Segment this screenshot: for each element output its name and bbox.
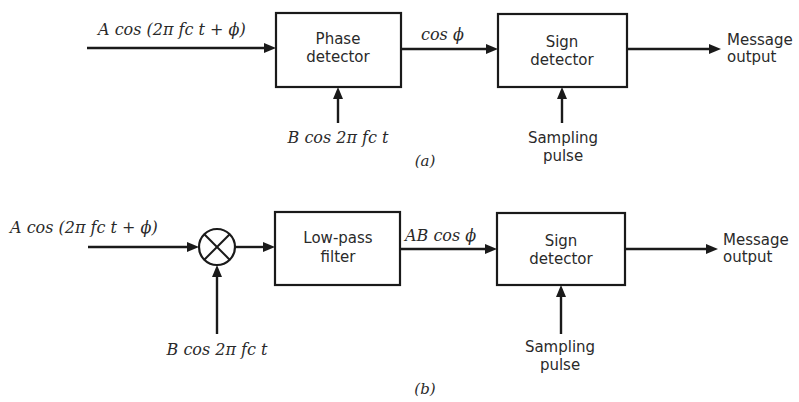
output-label-line2-a: output [727, 48, 777, 66]
arrowhead-icon [187, 242, 199, 252]
low-pass-filter-label-line2: filter [321, 248, 357, 266]
arrowhead-icon [264, 43, 276, 53]
sign-detector-label-line1-b: Sign [545, 232, 578, 250]
intermediate-signal-label-a: cos ϕ [421, 25, 464, 44]
intermediate-signal-label-b: AB cos ϕ [403, 226, 476, 245]
sampling-label-line1-b: Sampling [525, 338, 595, 356]
arrowhead-icon [485, 244, 497, 254]
arrowhead-icon [486, 44, 498, 54]
output-label-line1-a: Message [727, 31, 793, 49]
arrowhead-icon [556, 285, 566, 297]
low-pass-filter-label-line1: Low-pass [303, 229, 372, 247]
output-label-line1-b: Message [723, 231, 789, 249]
arrowhead-icon [557, 87, 567, 99]
output-label-line2-b: output [723, 248, 773, 266]
sign-detector-label-line2-b: detector [529, 250, 593, 268]
phase-detector-label-line2: detector [306, 48, 370, 66]
caption-a: (a) [415, 152, 436, 170]
sign-detector-label-line1-a: Sign [546, 33, 579, 51]
arrowhead-icon [263, 242, 275, 252]
input-signal-label-b: A cos (2π fc t + ϕ) [8, 218, 158, 237]
sampling-label-line2-b: pulse [540, 356, 580, 374]
diagram-part-a: A cos (2π fc t + ϕ) Phase detector B cos… [87, 13, 793, 170]
multiplier-icon [199, 229, 235, 265]
arrowhead-icon [709, 44, 721, 54]
sampling-label-line1-a: Sampling [528, 129, 598, 147]
input-signal-label-a: A cos (2π fc t + ϕ) [96, 20, 246, 39]
caption-b: (b) [414, 380, 435, 398]
sampling-label-line2-a: pulse [543, 147, 583, 165]
arrowhead-icon [212, 265, 222, 277]
phase-detector-label-line1: Phase [316, 30, 361, 48]
reference-signal-label-a: B cos 2π fc t [287, 128, 389, 147]
arrowhead-icon [333, 87, 343, 99]
sign-detector-label-line2-a: detector [530, 51, 594, 69]
coherent-detection-block-diagram: A cos (2π fc t + ϕ) Phase detector B cos… [0, 0, 799, 402]
arrowhead-icon [706, 244, 718, 254]
reference-signal-label-b: B cos 2π fc t [166, 340, 268, 359]
diagram-part-b: A cos (2π fc t + ϕ) B cos 2π fc t Low-pa… [8, 212, 789, 398]
